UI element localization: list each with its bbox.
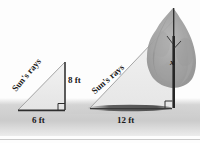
- tree-trunk: [172, 36, 175, 108]
- shadow-similar-triangles-figure: Sun's rays Sun's rays 8 ft 6 ft 12 ft x: [0, 0, 200, 143]
- pole-height-label: 8 ft: [68, 76, 81, 85]
- tree-height-label: x: [170, 58, 175, 67]
- tree-crown: [147, 8, 196, 88]
- pole-shadow-label: 6 ft: [32, 116, 45, 125]
- figure-bottom-rule: [0, 139, 200, 140]
- tree-shadow-label: 12 ft: [117, 116, 134, 125]
